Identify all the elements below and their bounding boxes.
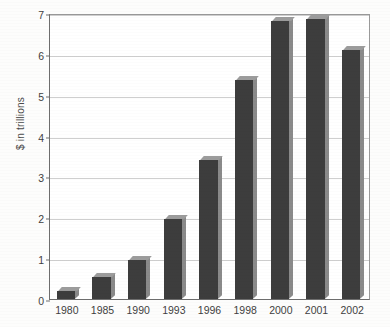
bar bbox=[342, 50, 361, 299]
bars-layer bbox=[50, 15, 369, 299]
bar-top-face bbox=[236, 76, 258, 80]
y-tick-label: 7 bbox=[38, 9, 44, 21]
bar bbox=[128, 260, 147, 299]
plot-area: 01234567 bbox=[49, 14, 370, 300]
x-tick-label: 2001 bbox=[299, 304, 335, 316]
x-tick-label: 1996 bbox=[192, 304, 228, 316]
y-tick-label: 2 bbox=[38, 213, 44, 225]
bar-side-face bbox=[218, 156, 222, 299]
x-tick-label: 1990 bbox=[120, 304, 156, 316]
bar-top-face bbox=[343, 46, 365, 50]
y-tick-label: 6 bbox=[38, 50, 44, 62]
bar-top-face bbox=[58, 287, 80, 291]
bar-front-face bbox=[164, 219, 183, 299]
bar-front-face bbox=[235, 80, 254, 299]
bar-front-face bbox=[92, 277, 111, 299]
bar-side-face bbox=[325, 15, 329, 298]
bar-front-face bbox=[306, 19, 325, 299]
bar-front-face bbox=[271, 21, 290, 299]
bar bbox=[92, 277, 111, 299]
x-tick-label: 2002 bbox=[334, 304, 370, 316]
bar-front-face bbox=[199, 160, 218, 299]
bar bbox=[199, 160, 218, 299]
bar-front-face bbox=[128, 260, 147, 299]
y-tick-mark bbox=[46, 301, 50, 302]
y-tick-label: 0 bbox=[38, 295, 44, 307]
bar-top-face bbox=[165, 215, 187, 219]
x-tick-label: 1985 bbox=[85, 304, 121, 316]
bar bbox=[235, 80, 254, 299]
x-tick-label: 1980 bbox=[49, 304, 85, 316]
y-axis-title: $ in trillions bbox=[15, 76, 26, 172]
bar-top-face bbox=[129, 256, 151, 260]
bar bbox=[271, 21, 290, 299]
bar-side-face bbox=[253, 77, 257, 299]
bar-side-face bbox=[182, 216, 186, 299]
bar-front-face bbox=[342, 50, 361, 299]
bar-side-face bbox=[360, 46, 364, 299]
y-tick-label: 4 bbox=[38, 132, 44, 144]
y-tick-label: 5 bbox=[38, 91, 44, 103]
bar-front-face bbox=[57, 291, 76, 299]
x-tick-label: 2000 bbox=[263, 304, 299, 316]
bar bbox=[164, 219, 183, 299]
bar bbox=[306, 19, 325, 299]
bar-top-face bbox=[93, 273, 115, 277]
bar bbox=[57, 291, 76, 299]
x-tick-label: 1993 bbox=[156, 304, 192, 316]
y-tick-label: 1 bbox=[38, 254, 44, 266]
bar-side-face bbox=[146, 256, 150, 298]
bar-top-face bbox=[272, 17, 294, 21]
bar-side-face bbox=[289, 17, 293, 298]
x-tick-label: 1998 bbox=[227, 304, 263, 316]
y-tick-label: 3 bbox=[38, 172, 44, 184]
bar-chart: $ in trillions 01234567 1980198519901993… bbox=[0, 0, 390, 327]
